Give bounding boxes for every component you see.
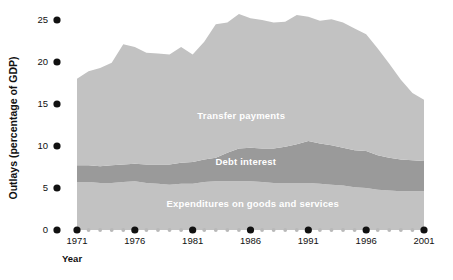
x-minor-tick-dot-1994	[341, 228, 345, 232]
x-tick-label-1976: 1976	[124, 235, 145, 246]
x-minor-tick-dot-1983	[214, 228, 218, 232]
series-label-debt-interest: Debt interest	[216, 156, 277, 167]
y-tick-label-15: 15	[37, 98, 48, 109]
x-minor-tick-dot-1993	[330, 228, 334, 232]
y-tick-label-0: 0	[43, 224, 48, 235]
y-tick-dot-5	[53, 184, 60, 191]
x-major-tick-dot-1976	[131, 226, 138, 233]
y-tick-label-5: 5	[43, 182, 48, 193]
x-minor-tick-dot-1978	[156, 228, 160, 232]
y-tick-dot-10	[53, 142, 60, 149]
x-major-tick-dot-1981	[189, 226, 196, 233]
x-minor-tick-dot-1997	[376, 228, 380, 232]
x-major-tick-dot-1971	[73, 226, 80, 233]
y-tick-dot-20	[53, 58, 60, 65]
x-minor-tick-dot-1999	[399, 228, 403, 232]
y-tick-label-20: 20	[37, 56, 48, 67]
x-tick-label-2001: 2001	[413, 235, 434, 246]
x-major-tick-dot-2001	[420, 226, 427, 233]
x-minor-tick-dot-2000	[411, 228, 415, 232]
x-tick-label-1986: 1986	[240, 235, 261, 246]
x-minor-tick-dot-1984	[225, 228, 229, 232]
x-minor-tick-dot-1973	[98, 228, 102, 232]
y-axis-title: Outlays (percentage of GDP)	[7, 57, 19, 200]
y-tick-dot-15	[53, 100, 60, 107]
series-label-expenditures-on-goods-and-services: Expenditures on goods and services	[167, 198, 340, 209]
x-minor-tick-dot-1998	[387, 228, 391, 232]
x-minor-tick-dot-1985	[237, 228, 241, 232]
x-major-tick-dot-1996	[363, 226, 370, 233]
area-band-transfer-payments	[77, 14, 424, 166]
x-tick-label-1981: 1981	[182, 235, 203, 246]
series-label-transfer-payments: Transfer payments	[197, 110, 285, 121]
x-minor-tick-dot-1988	[272, 228, 276, 232]
x-axis-tick-labels: 1971197619811986199119962001	[66, 235, 434, 246]
x-axis-title: Year	[62, 253, 82, 264]
y-tick-label-25: 25	[37, 14, 48, 25]
y-tick-dot-25	[53, 16, 60, 23]
y-tick-dot-0	[53, 226, 60, 233]
x-major-tick-dot-1991	[305, 226, 312, 233]
x-minor-tick-dot-1974	[110, 228, 114, 232]
y-tick-label-10: 10	[37, 140, 48, 151]
x-minor-tick-dot-1989	[283, 228, 287, 232]
x-minor-tick-dot-1982	[202, 228, 206, 232]
x-minor-tick-dot-1987	[260, 228, 264, 232]
x-minor-tick-dot-1990	[295, 228, 299, 232]
area-chart: Outlays (percentage of GDP) 25 20 15 10 …	[0, 0, 453, 280]
x-tick-label-1996: 1996	[356, 235, 377, 246]
x-minor-tick-dot-1972	[87, 228, 91, 232]
y-axis-tick-markers	[53, 16, 60, 233]
x-tick-label-1971: 1971	[66, 235, 87, 246]
chart-figure: Outlays (percentage of GDP) 25 20 15 10 …	[0, 0, 453, 280]
y-axis-tick-labels: 25 20 15 10 5 0	[37, 14, 48, 235]
x-minor-tick-dot-1975	[121, 228, 125, 232]
x-minor-tick-dot-1977	[145, 228, 149, 232]
x-major-tick-dot-1986	[247, 226, 254, 233]
x-minor-tick-dot-1979	[168, 228, 172, 232]
x-minor-tick-dot-1995	[353, 228, 357, 232]
x-minor-tick-dot-1992	[318, 228, 322, 232]
x-tick-label-1991: 1991	[298, 235, 319, 246]
x-minor-tick-dot-1980	[179, 228, 183, 232]
